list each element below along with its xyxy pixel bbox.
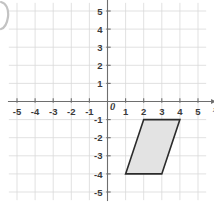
y-tick-label: 3 [97, 42, 102, 53]
x-tick-label: -3 [49, 106, 57, 117]
y-tick-label: -1 [94, 114, 103, 125]
x-tick-label: -4 [31, 106, 40, 117]
page-curl-artifact [1, 2, 8, 29]
x-tick-label: -5 [13, 106, 22, 117]
y-tick-label: -4 [94, 169, 103, 180]
y-tick-label: 5 [97, 6, 103, 17]
x-tick-label: 1 [123, 106, 129, 117]
y-tick-label: 4 [97, 24, 103, 35]
y-tick-label: -2 [94, 132, 102, 143]
parallelogram [126, 120, 180, 174]
x-tick-label: 3 [159, 106, 164, 117]
x-axis-label: x [212, 105, 214, 114]
x-tick-label: 5 [195, 106, 201, 117]
y-tick-label: -3 [94, 150, 102, 161]
x-tick-label: -2 [67, 106, 75, 117]
x-tick-label: 2 [141, 106, 146, 117]
x-tick-label: -1 [85, 106, 94, 117]
coordinate-grid-svg: -5-4-3-2-11234554321-1-2-3-4-50x [0, 0, 214, 206]
x-axis-arrow-icon [211, 99, 214, 104]
y-tick-label: 1 [97, 78, 103, 89]
y-tick-label: 2 [97, 60, 102, 71]
y-tick-label: -5 [94, 187, 103, 198]
origin-label: 0 [110, 101, 116, 112]
x-tick-label: 4 [177, 106, 183, 117]
coordinate-plane-figure: -5-4-3-2-11234554321-1-2-3-4-50x [0, 0, 214, 206]
